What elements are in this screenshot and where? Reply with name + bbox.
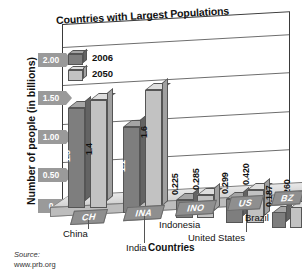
legend-swatch-2050-icon (68, 70, 83, 81)
bars-layer-brazil: 0.187 0.260 (0, 0, 302, 280)
bar-BZ-2006[interactable] (272, 212, 286, 228)
population-bar-chart: Countries with Largest Populations Numbe… (0, 0, 302, 280)
source-url: www.prb.org (14, 260, 56, 270)
category-code-US: US (227, 195, 264, 211)
bar-face (272, 212, 286, 228)
category-code-CH: CH (70, 209, 108, 225)
leader-line-china (88, 220, 89, 229)
category-name-indonesia: Indonesia (159, 219, 200, 230)
leader-line-india (144, 216, 145, 243)
bar-BZ-2050[interactable] (290, 207, 302, 228)
category-name-united-states: United States (188, 232, 245, 243)
legend-label-2050: 2050 (92, 68, 113, 79)
category-name-india: India (126, 242, 147, 253)
category-code-INO: INO (175, 200, 217, 216)
legend-label-2006: 2006 (92, 52, 113, 63)
chart-legend: 2006 2050 (68, 52, 164, 92)
source-note: Source: www.prb.org (14, 250, 56, 269)
legend-swatch-2006-icon (68, 54, 83, 65)
category-name-china: China (63, 228, 88, 239)
bar-face (290, 207, 302, 228)
category-code-BZ: BZ (271, 190, 302, 206)
source-label: Source: (14, 250, 56, 260)
category-name-brazil: Brazil (245, 212, 269, 223)
